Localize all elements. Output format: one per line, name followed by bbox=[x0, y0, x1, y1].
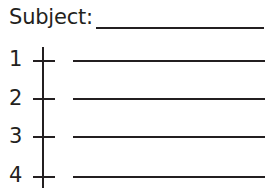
row-number-3: 3 bbox=[9, 124, 22, 148]
row-number-1: 1 bbox=[9, 47, 22, 71]
row-number-4: 4 bbox=[9, 163, 22, 187]
timeline-axis bbox=[42, 47, 44, 188]
answer-line-2[interactable] bbox=[73, 98, 265, 100]
answer-line-4[interactable] bbox=[73, 176, 265, 178]
timeline-tick-2 bbox=[33, 98, 55, 100]
answer-line-1[interactable] bbox=[73, 60, 265, 62]
subject-answer-line[interactable] bbox=[96, 27, 264, 29]
subject-label: Subject: bbox=[9, 4, 93, 30]
timeline-tick-4 bbox=[33, 176, 55, 178]
answer-line-3[interactable] bbox=[73, 136, 265, 138]
timeline-tick-1 bbox=[33, 60, 55, 62]
row-number-2: 2 bbox=[9, 86, 22, 110]
timeline-tick-3 bbox=[33, 136, 55, 138]
